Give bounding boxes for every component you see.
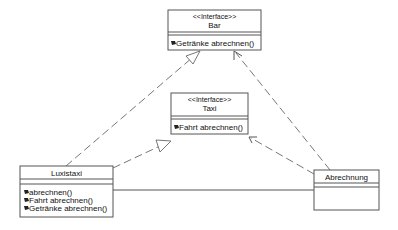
- class-name: Bar: [208, 21, 221, 30]
- operation-label: Getränke abrechnen(): [176, 39, 255, 48]
- class-box-bar[interactable]: <<Interface>> Bar Getränke abrechnen(): [168, 10, 261, 50]
- stereotype-label: <<Interface>>: [193, 13, 237, 20]
- class-name: Taxi: [202, 104, 216, 113]
- class-box-abrechnung[interactable]: Abrechnung: [314, 170, 379, 210]
- class-box-luxistaxi[interactable]: Luxistaxi abrechnen() Fahrt abrechnen() …: [20, 166, 113, 217]
- dependency-abrechnung-bar: [236, 53, 330, 170]
- open-arrowhead-icon: [249, 137, 257, 143]
- operation-label: Getränke abrechnen(): [29, 204, 108, 213]
- uml-diagram-canvas: <<Interface>> Bar Getränke abrechnen() <…: [0, 0, 398, 230]
- stereotype-label: <<Interface>>: [188, 96, 232, 103]
- hollow-triangle-arrowhead-icon: [156, 140, 171, 152]
- class-name: Luxistaxi: [51, 169, 82, 178]
- class-name: Abrechnung: [325, 173, 368, 182]
- hollow-triangle-arrowhead-icon: [186, 51, 200, 64]
- operation-label: Fahrt abrechnen(): [179, 123, 243, 132]
- dependency-abrechnung-taxi: [251, 138, 314, 174]
- realization-luxistaxi-taxi: [113, 146, 160, 168]
- class-box-taxi[interactable]: <<Interface>> Taxi Fahrt abrechnen(): [171, 93, 248, 134]
